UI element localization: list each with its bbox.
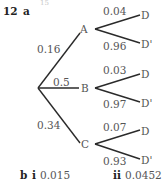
node-a: A <box>80 24 88 35</box>
branch-b-d <box>95 74 140 88</box>
node-c: C <box>81 139 89 150</box>
prob-b-d: 0.03 <box>103 65 126 76</box>
node-b-d: D <box>141 69 149 80</box>
node-b-dprime: D' <box>141 98 152 109</box>
part-b-label: b <box>20 170 27 181</box>
prob-c: 0.34 <box>37 120 60 131</box>
answer-i-label: i <box>32 170 36 181</box>
answer-i-value: 0.015 <box>40 170 70 181</box>
prob-c-d: 0.07 <box>103 122 126 133</box>
node-a-dprime: D' <box>141 39 152 50</box>
prob-a: 0.16 <box>37 44 60 55</box>
node-c-d: D <box>141 126 149 137</box>
branch-root-c <box>38 88 80 143</box>
node-a-d: D <box>141 10 149 21</box>
node-b: B <box>81 83 89 94</box>
prob-c-dprime: 0.93 <box>103 156 126 167</box>
branch-a-d <box>95 15 140 29</box>
answer-ii-value: 0.0452 <box>125 170 162 181</box>
prob-a-d: 0.04 <box>103 6 126 17</box>
prob-b: 0.5 <box>53 77 70 88</box>
node-c-dprime: D' <box>141 155 152 166</box>
prob-b-dprime: 0.97 <box>103 99 126 110</box>
answer-ii-label: ii <box>113 170 121 181</box>
prob-a-dprime: 0.96 <box>103 41 126 52</box>
